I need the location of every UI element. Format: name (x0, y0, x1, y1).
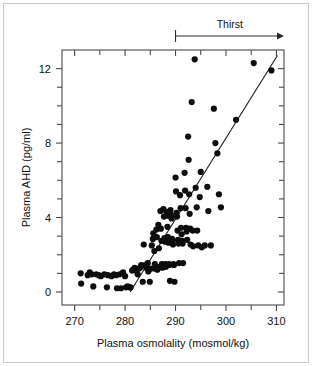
data-point (140, 279, 146, 285)
data-point (90, 283, 96, 289)
regression-line (130, 56, 277, 292)
data-point (156, 245, 162, 251)
data-point (147, 279, 153, 285)
data-point (268, 67, 274, 73)
data-point (170, 241, 176, 247)
data-point (164, 224, 170, 230)
data-point (186, 191, 192, 197)
data-point (168, 215, 174, 221)
data-point (141, 241, 147, 247)
y-tick-label-4: 4 (45, 212, 51, 224)
data-point (251, 60, 257, 66)
data-point (172, 174, 178, 180)
data-point (128, 284, 134, 290)
x-tick-label-290: 290 (166, 315, 184, 327)
data-point (204, 184, 210, 190)
data-point (194, 204, 200, 210)
data-point (78, 280, 84, 286)
data-point (135, 271, 141, 277)
data-point (174, 213, 180, 219)
data-point (185, 133, 191, 139)
data-point (122, 273, 128, 279)
data-point (193, 185, 199, 191)
thirst-arrowhead (277, 32, 284, 39)
data-point (197, 194, 203, 200)
data-point (194, 227, 200, 233)
data-point (214, 150, 220, 156)
data-point (158, 226, 164, 232)
x-tick-label-270: 270 (65, 315, 83, 327)
data-point (218, 204, 224, 210)
data-point (189, 99, 195, 105)
data-point (145, 260, 151, 266)
data-point (182, 170, 188, 176)
scatter-chart: 270280290300310Plasma osmolality (mosmol… (0, 0, 312, 366)
data-point (78, 270, 84, 276)
data-point (187, 211, 193, 217)
y-tick-label-8: 8 (45, 137, 51, 149)
data-point (104, 284, 110, 290)
data-point (198, 169, 204, 175)
data-point (149, 242, 155, 248)
data-point (205, 208, 211, 214)
data-point (202, 242, 208, 248)
data-point (208, 242, 214, 248)
y-tick-label-12: 12 (39, 63, 51, 75)
y-axis-label: Plasma AHD (pg/ml) (20, 128, 32, 228)
data-point (192, 56, 198, 62)
data-point (177, 192, 183, 198)
data-point (183, 205, 189, 211)
thirst-label: Thirst (217, 18, 243, 30)
data-point (233, 117, 239, 123)
data-point (216, 191, 222, 197)
x-axis-label: Plasma osmolality (mosmol/kg) (97, 337, 249, 349)
x-tick-label-280: 280 (116, 315, 134, 327)
data-point (186, 157, 192, 163)
data-point (180, 260, 186, 266)
x-tick-label-300: 300 (217, 315, 235, 327)
figure-root: 270280290300310Plasma osmolality (mosmol… (0, 0, 312, 366)
data-point (211, 106, 217, 112)
data-point (171, 279, 177, 285)
data-point (212, 140, 218, 146)
y-tick-label-0: 0 (45, 286, 51, 298)
x-tick-label-310: 310 (267, 315, 285, 327)
